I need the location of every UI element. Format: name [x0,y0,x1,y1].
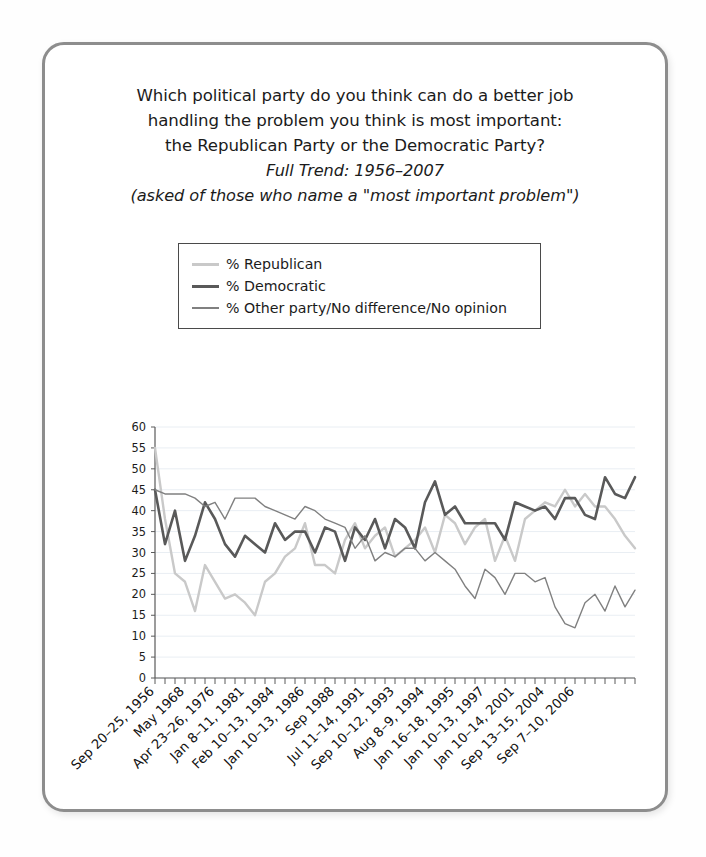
y-axis-ticks: 051015202530354045505560 [132,420,156,685]
title-line-4-subtitle: Full Trend: 1956–2007 [45,158,665,183]
svg-text:0: 0 [139,671,146,685]
screenshot-page: Which political party do you think can d… [0,0,706,857]
legend-label-republican: % Republican [226,256,322,272]
svg-text:35: 35 [132,525,147,539]
chart-card: Which political party do you think can d… [42,42,668,812]
svg-text:15: 15 [132,608,147,622]
data-series [155,448,635,628]
legend-swatch-republican [192,263,219,266]
legend-item-republican: % Republican [179,253,540,275]
legend-item-democratic: % Democratic [179,275,540,297]
chart-legend: % Republican % Democratic % Other party/… [178,243,541,329]
title-line-2: handling the problem you think is most i… [45,108,665,133]
svg-text:20: 20 [132,587,147,601]
legend-swatch-democratic [192,285,219,288]
x-axis-labels: Sep 20–25, 1956May 1968Apr 23–26, 1976Ja… [68,684,577,773]
svg-text:5: 5 [139,650,146,664]
legend-swatch-other [192,307,219,309]
legend-label-democratic: % Democratic [226,278,326,294]
page-title: Which political party do you think can d… [45,83,665,208]
svg-text:10: 10 [132,629,147,643]
legend-label-other: % Other party/No difference/No opinion [226,300,507,316]
svg-text:55: 55 [132,441,147,455]
title-line-3: the Republican Party or the Democratic P… [45,133,665,158]
line-chart: 051015202530354045505560 Sep 20–25, 1956… [45,332,671,802]
title-line-1: Which political party do you think can d… [45,83,665,108]
svg-text:25: 25 [132,566,147,580]
chart-area: 051015202530354045505560 Sep 20–25, 1956… [45,332,671,802]
svg-text:60: 60 [132,420,147,434]
svg-text:30: 30 [132,546,147,560]
legend-item-other: % Other party/No difference/No opinion [179,297,540,319]
title-line-5-note: (asked of those who name a "most importa… [45,183,665,208]
svg-text:45: 45 [132,483,147,497]
svg-text:50: 50 [132,462,147,476]
svg-text:40: 40 [132,504,147,518]
grid-lines [155,427,635,678]
x-axis-ticks [155,678,635,684]
